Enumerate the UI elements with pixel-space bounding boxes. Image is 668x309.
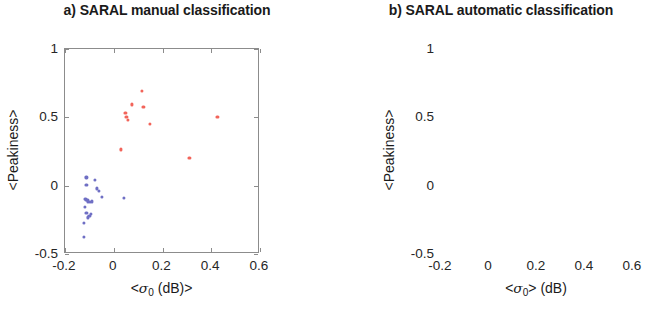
y-axis-tick [65,186,69,187]
y-tick-label: -0.5 [22,246,58,261]
y-tick-label: -0.5 [398,246,434,261]
x-tick-label: 0.4 [575,258,594,273]
x-axis-prefix: < [131,280,139,296]
x-axis-tick [211,248,212,252]
y-axis-tick [65,117,69,118]
panel-a-title: a) SARAL manual classification [0,2,334,18]
x-axis-tick [211,49,212,53]
panel-a-plot-area [64,48,259,253]
x-tick-label: 0 [484,258,492,273]
x-tick-label: 0.2 [527,258,546,273]
x-axis-suffix: > (dB) [528,280,567,296]
y-tick-label: 0 [22,177,58,192]
x-axis-tick [260,49,261,53]
panel-a-ticks-layer [65,49,258,252]
x-axis-tick [163,49,164,53]
x-axis-tick [114,248,115,252]
y-tick-label: 1 [398,41,434,56]
y-axis-tick [65,254,69,255]
x-tick-label: 0 [109,258,117,273]
y-axis-tick [254,117,258,118]
x-tick-label: 0.6 [250,258,269,273]
y-axis-tick [254,186,258,187]
y-tick-label: 0.5 [398,109,434,124]
y-axis-tick [65,49,69,50]
sigma-symbol: σ [139,280,148,296]
x-axis-tick [163,248,164,252]
y-tick-label: 0 [398,177,434,192]
x-axis-tick [260,248,261,252]
x-tick-label: 0.6 [623,258,642,273]
y-tick-label: 1 [22,41,58,56]
x-axis-tick [114,49,115,53]
y-tick-label: 0.5 [22,109,58,124]
x-axis-tick [65,248,66,252]
panel-b-y-axis-title: <Peakiness> [380,47,396,252]
y-axis-tick [254,49,258,50]
panel-a-x-axis-title: <σ0 (dB)> [64,280,259,298]
x-axis-suffix: (dB)> [154,280,193,296]
sigma-symbol: σ [513,280,522,296]
x-tick-label: 0.2 [152,258,171,273]
x-tick-label: 0.4 [201,258,220,273]
panel-a: a) SARAL manual classification <Peakines… [0,0,334,309]
panel-a-y-axis-title: <Peakiness> [4,47,20,252]
panel-b-x-axis-title: <σ0> (dB) [440,280,632,298]
panel-b: b) SARAL automatic classification <Peaki… [334,0,668,309]
y-axis-tick [254,254,258,255]
panel-b-title: b) SARAL automatic classification [334,2,668,18]
figure-container: a) SARAL manual classification <Peakines… [0,0,668,309]
